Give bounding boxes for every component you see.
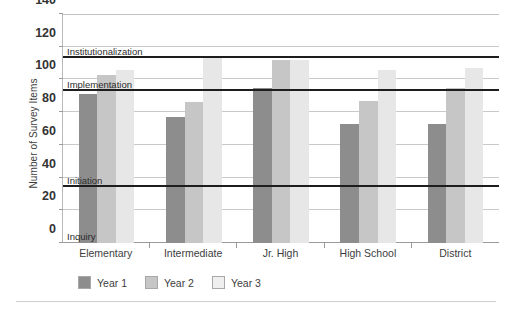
bar-group-bars — [166, 14, 222, 243]
y-tick-label: 80 — [42, 91, 56, 105]
bar-group — [325, 14, 412, 243]
bar-year2-intermediate[interactable] — [185, 102, 204, 243]
y-tick-label: 0 — [49, 222, 56, 236]
year1-swatch — [78, 276, 91, 289]
x-axis-label-elementary: Elementary — [62, 247, 149, 259]
bottom-divider — [16, 301, 496, 302]
legend-label: Year 1 — [97, 277, 127, 289]
bar-chart-figure: Number of Survey Items 02040608010012014… — [0, 0, 512, 311]
legend-item-year3[interactable]: Year 3 — [212, 276, 261, 289]
bar-group — [412, 14, 499, 243]
bar-year2-high-school[interactable] — [359, 101, 378, 243]
bar-year3-district[interactable] — [465, 68, 484, 243]
bar-year2-district[interactable] — [446, 88, 465, 243]
x-axis-label-district: District — [412, 247, 499, 259]
threshold-label-inquiry: Inquiry — [67, 231, 96, 242]
legend-item-year2[interactable]: Year 2 — [145, 276, 194, 289]
y-tick-label: 120 — [35, 26, 56, 40]
threshold-label-implementation: Implementation — [67, 79, 132, 90]
bar-year2-elementary[interactable] — [97, 75, 116, 243]
threshold-label-institutionalization: Institutionalization — [67, 46, 143, 57]
year2-swatch — [145, 276, 158, 289]
chart-legend: Year 1Year 2Year 3 — [62, 276, 499, 289]
bar-year3-intermediate[interactable] — [203, 58, 222, 243]
x-axis-labels: ElementaryIntermediateJr. HighHigh Schoo… — [62, 247, 499, 259]
bar-group-bars — [253, 14, 309, 243]
bar-year1-jr-high[interactable] — [253, 88, 272, 243]
bar-group-bars — [340, 14, 396, 243]
threshold-label-initiation: Initiation — [67, 175, 102, 186]
bar-year3-high-school[interactable] — [378, 70, 397, 243]
threshold-line-initiation — [63, 185, 499, 187]
x-axis-label-jr-high: Jr. High — [237, 247, 324, 259]
bar-year3-elementary[interactable] — [116, 70, 135, 243]
legend-label: Year 2 — [164, 277, 194, 289]
legend-label: Year 3 — [231, 277, 261, 289]
y-tick-label: 40 — [42, 157, 56, 171]
bar-group-bars — [428, 14, 484, 243]
bar-year1-high-school[interactable] — [340, 124, 359, 243]
y-tick-label: 140 — [35, 0, 56, 7]
y-tick-label: 20 — [42, 189, 56, 203]
x-axis-label-high-school: High School — [324, 247, 411, 259]
plot-area: 020406080100120140 InstitutionalizationI… — [62, 14, 499, 243]
legend-item-year1[interactable]: Year 1 — [78, 276, 127, 289]
y-axis-title: Number of Survey Items — [28, 49, 39, 219]
y-tick-label: 100 — [35, 58, 56, 72]
bar-year1-district[interactable] — [428, 124, 447, 243]
bar-group — [237, 14, 324, 243]
bar-year1-elementary[interactable] — [79, 94, 98, 243]
bar-year2-jr-high[interactable] — [272, 60, 291, 243]
bar-year1-intermediate[interactable] — [166, 117, 185, 243]
x-axis-label-intermediate: Intermediate — [149, 247, 236, 259]
y-tick-label: 60 — [42, 124, 56, 138]
bar-year3-jr-high[interactable] — [290, 60, 309, 243]
year3-swatch — [212, 276, 225, 289]
bar-group — [150, 14, 237, 243]
